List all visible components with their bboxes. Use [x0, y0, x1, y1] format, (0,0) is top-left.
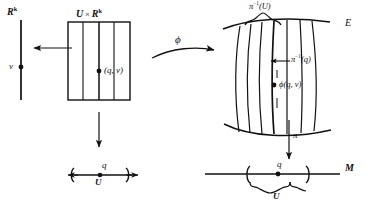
right-base-brace-tail — [290, 182, 306, 191]
pi-projection-label: π — [293, 131, 298, 140]
left-base-brace-label: U — [95, 178, 102, 187]
diagram-vector-graphics — [0, 0, 366, 205]
box-point-dot — [97, 69, 102, 74]
left-base-group — [68, 168, 138, 182]
curved-fiber — [236, 26, 240, 132]
curved-fiber — [300, 20, 302, 133]
right-base-point-dot — [276, 172, 281, 177]
base-space-label: M — [345, 163, 354, 173]
right-base-group — [205, 166, 340, 193]
curved-fiber — [259, 22, 262, 134]
fiber-point-label: v — [9, 62, 13, 71]
preimage-open-label: π−1(U) — [249, 1, 271, 10]
fiber-axis-group — [19, 20, 24, 100]
trivial-bundle-box — [68, 22, 130, 100]
fiber-point-dot — [19, 65, 24, 70]
figure-canvas: Rk v U×Rk (q, v) ϕ π−1(U) E π−1(q) ϕ(q, … — [0, 0, 366, 205]
curved-fiber — [247, 24, 251, 133]
image-point-label: ϕ(q, v) — [279, 80, 301, 89]
right-base-brace — [250, 182, 290, 193]
total-space-group — [223, 13, 331, 136]
phi-arrow-group — [152, 48, 214, 58]
image-point-dot — [272, 83, 277, 88]
phi-label: ϕ — [175, 34, 181, 45]
left-base-point-label: q — [102, 161, 107, 170]
phi-arrow — [152, 48, 214, 58]
curved-fiber — [312, 21, 316, 131]
box-point-label: (q, v) — [104, 66, 123, 75]
curved-fiber-center — [272, 21, 274, 134]
right-base-point-label: q — [277, 160, 282, 169]
right-base-brace-label: U — [273, 192, 280, 201]
trivial-bundle-label: U×Rk — [76, 8, 102, 19]
total-space-label: E — [345, 18, 351, 28]
fiber-axis-label: Rk — [7, 6, 17, 17]
preimage-point-label: π−1(q) — [291, 54, 311, 63]
